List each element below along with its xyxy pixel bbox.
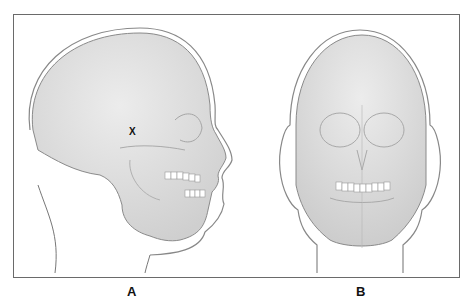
lateral-head [29, 28, 232, 273]
panel-label-b: B [356, 284, 365, 299]
skull-illustration [0, 0, 472, 304]
panel-label-a: A [127, 284, 136, 299]
frontal-head [280, 30, 441, 273]
reference-marker: X [129, 126, 136, 137]
